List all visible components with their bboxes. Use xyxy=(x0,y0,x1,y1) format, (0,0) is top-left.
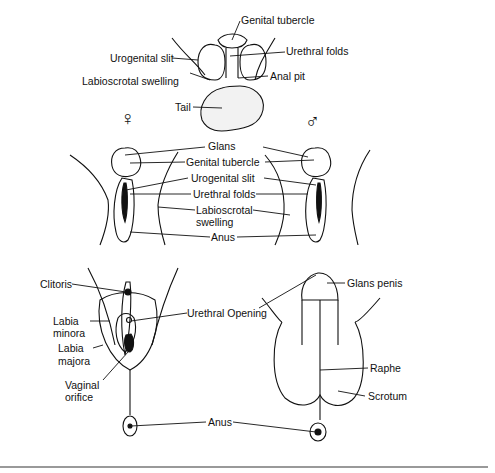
label-vaginal-orifice-1: Vaginal xyxy=(65,379,99,391)
label-urogenital-slit-mid: Urogenital slit xyxy=(191,172,255,184)
label-labioscrotal-mid-1: Labioscrotal xyxy=(196,204,253,216)
label-urogenital-slit-top: Urogenital slit xyxy=(110,52,174,64)
label-tail: Tail xyxy=(175,101,191,113)
label-urethral-folds-top: Urethral folds xyxy=(286,45,348,57)
label-labia-majora-2: majora xyxy=(58,355,90,367)
label-vaginal-orifice-2: orifice xyxy=(65,391,93,403)
label-labioscrotal-mid-2: swelling xyxy=(196,216,233,228)
label-genital-tubercle-mid: Genital tubercle xyxy=(186,156,260,168)
label-scrotum: Scrotum xyxy=(368,390,407,402)
label-urethral-opening: Urethral Opening xyxy=(187,307,267,319)
label-glans: Glans xyxy=(208,140,235,152)
label-urethral-folds-mid: Urethral folds xyxy=(193,188,255,200)
label-labia-majora-1: Labia xyxy=(58,342,84,354)
label-anus-mid: Anus xyxy=(211,231,235,243)
label-labia-minora-1: Labia xyxy=(53,315,79,327)
label-anus-bottom: Anus xyxy=(208,416,232,428)
male-symbol-icon: ♂ xyxy=(305,111,320,131)
label-labia-minora-2: minora xyxy=(53,327,85,339)
label-genital-tubercle-top: Genital tubercle xyxy=(241,14,315,26)
label-raphe: Raphe xyxy=(370,362,401,374)
female-symbol-icon: ♀ xyxy=(120,108,135,128)
label-clitoris: Clitoris xyxy=(40,278,72,290)
label-labioscrotal-swelling-top: Labioscrotal swelling xyxy=(82,75,179,87)
label-anal-pit: Anal pit xyxy=(270,70,305,82)
label-glans-penis: Glans penis xyxy=(347,277,402,289)
